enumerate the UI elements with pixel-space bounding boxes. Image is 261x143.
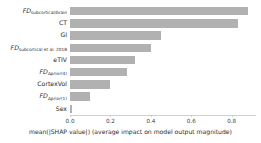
y-axis-tick-label: FDΔprior(4) [0,69,67,75]
bar-row [70,19,256,28]
bar [70,56,135,65]
y-axis-tick-label: FDsubcortical/brain [0,8,67,14]
x-axis-tick-label: 0.2 [106,118,115,124]
bar-row [70,105,256,114]
feature-name: FD [40,68,48,75]
feature-name: FD [11,44,19,51]
bar-row [70,31,256,40]
x-axis-title: mean(|SHAP value|) (average impact on mo… [0,128,261,135]
feature-subscript: Δprior(1) [48,96,67,101]
feature-name: eTIV [53,56,67,63]
bar-row [70,7,256,16]
x-axis-tick-label: 0.0 [66,118,75,124]
feature-subscript: subcortical/brain [31,10,67,15]
y-axis-tick-label: FDsubcortical et al. 2018 [0,45,67,51]
bar [70,44,151,53]
x-axis-tick-label: 0.8 [227,118,236,124]
bar [70,7,248,16]
x-axis-tick-mark [151,115,152,117]
y-axis-tick-label: CT [0,20,67,26]
x-axis-tick-mark [110,115,111,117]
bar [70,19,238,28]
y-axis-tick-label: eTIV [0,57,67,63]
feature-subscript: Δprior(4) [48,71,67,76]
y-axis-label-group: FDsubcortical/brainCTGIFDsubcortical et … [0,5,67,115]
feature-name: Sex [56,105,67,112]
bar [70,80,110,89]
y-axis-tick-label: GI [0,32,67,38]
y-axis-tick-label: CortexVol [0,81,67,87]
x-axis-tick-mark [70,115,71,117]
y-axis-tick-label: FDΔprior(1) [0,93,67,99]
y-axis-tick-label: Sex [0,106,67,112]
plot-area [70,5,256,115]
feature-name: CortexVol [37,80,67,87]
feature-name: CT [59,19,67,26]
bar-row [70,56,256,65]
bar-row [70,80,256,89]
bar [70,105,72,114]
feature-subscript: subcortical et al. 2018 [19,47,67,52]
x-axis-tick-label: 0.6 [187,118,196,124]
feature-name: FD [23,7,31,14]
x-axis-line [70,115,256,116]
x-axis-tick-label: 0.4 [146,118,155,124]
x-axis-tick-mark [191,115,192,117]
feature-name: FD [40,92,48,99]
shap-feature-importance-chart: FDsubcortical/brainCTGIFDsubcortical et … [0,0,261,143]
bar [70,31,161,40]
x-axis-tick-mark [232,115,233,117]
bar [70,92,90,101]
bar-row [70,92,256,101]
feature-name: GI [60,31,67,38]
bar-row [70,68,256,77]
bar-row [70,44,256,53]
bar [70,68,127,77]
